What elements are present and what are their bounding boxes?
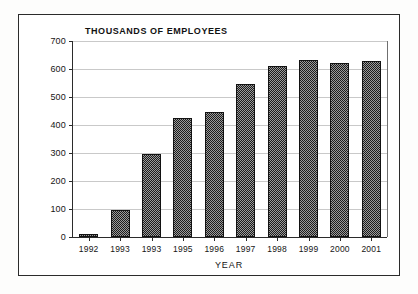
bar (362, 61, 381, 237)
bar-slot (142, 41, 161, 237)
bar-slot (330, 41, 349, 237)
bar-slot (362, 41, 381, 237)
x-tick-label: 1998 (267, 244, 287, 254)
bar-slot (79, 41, 98, 237)
plot-right-border (387, 41, 388, 237)
bar-slot (205, 41, 224, 237)
x-tick-label: 1995 (173, 244, 193, 254)
x-tick-mark (214, 237, 215, 241)
x-axis-title: YEAR (72, 260, 386, 270)
bar-slot (236, 41, 255, 237)
y-tick-label: 200 (50, 176, 66, 186)
x-tick-mark (277, 237, 278, 241)
y-tick-label: 0 (61, 232, 66, 242)
bar (142, 154, 161, 237)
x-tick-mark (371, 237, 372, 241)
chart-title: THOUSANDS OF EMPLOYEES (85, 26, 228, 36)
plot-area: THOUSANDS OF EMPLOYEES 70060050040030020… (72, 41, 387, 238)
x-tick-mark (183, 237, 184, 241)
y-tick-label: 500 (50, 92, 66, 102)
bar-slot (173, 41, 192, 237)
bars-layer (73, 41, 387, 237)
y-tick-label: 100 (50, 204, 66, 214)
y-tick-mark (69, 237, 73, 238)
x-tick-label: 1993 (110, 244, 130, 254)
bar-slot (268, 41, 287, 237)
x-tick-label: 1999 (299, 244, 319, 254)
x-tick-mark (89, 237, 90, 241)
x-tick-label: 2001 (361, 244, 381, 254)
bar-slot (299, 41, 318, 237)
y-tick-label: 400 (50, 120, 66, 130)
x-tick-mark (309, 237, 310, 241)
x-tick-label: 1997 (236, 244, 256, 254)
bar (111, 210, 130, 237)
x-tick-label: 2000 (330, 244, 350, 254)
x-tick-mark (152, 237, 153, 241)
y-tick-label: 700 (50, 36, 66, 46)
bar-slot (111, 41, 130, 237)
x-tick-mark (340, 237, 341, 241)
x-tick-label: 1992 (79, 244, 99, 254)
bar (299, 60, 318, 237)
bar (330, 63, 349, 237)
bar (268, 66, 287, 237)
bar (236, 84, 255, 237)
x-tick-mark (120, 237, 121, 241)
x-tick-label: 1993 (142, 244, 162, 254)
bar (173, 118, 192, 237)
x-tick-mark (246, 237, 247, 241)
y-tick-label: 600 (50, 64, 66, 74)
y-tick-label: 300 (50, 148, 66, 158)
bar (205, 112, 224, 237)
scanned-page-background: THOUSANDS OF EMPLOYEES 70060050040030020… (0, 0, 418, 294)
figure-frame: THOUSANDS OF EMPLOYEES 70060050040030020… (18, 14, 400, 276)
x-tick-label: 1996 (204, 244, 224, 254)
